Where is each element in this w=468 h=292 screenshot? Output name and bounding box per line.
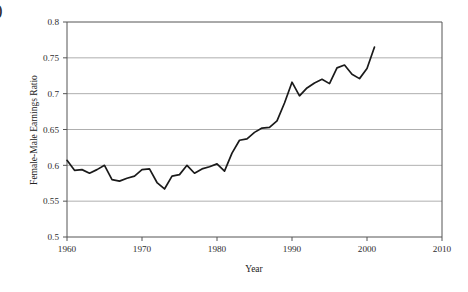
y-tick-label: 0.55 — [43, 196, 59, 206]
x-tick-label: 2000 — [358, 244, 377, 254]
y-tick-label: 0.8 — [48, 17, 60, 27]
y-tick-label: 0.65 — [43, 125, 59, 135]
y-tick-label: 0.5 — [48, 232, 60, 242]
y-tick-label: 0.75 — [43, 53, 59, 63]
x-tick-label: 1990 — [283, 244, 302, 254]
x-tick-label: 1970 — [133, 244, 152, 254]
y-axis-title: Female-Male Earnings Ratio — [29, 75, 39, 185]
x-axis-title: Year — [245, 264, 263, 274]
x-tick-label: 2010 — [433, 244, 452, 254]
y-tick-label: 0.7 — [48, 89, 60, 99]
x-tick-label: 1980 — [208, 244, 227, 254]
earnings-ratio-series — [67, 47, 375, 189]
y-axis-ticks: 0.50.550.60.650.70.750.8 — [43, 17, 67, 242]
x-tick-label: 1960 — [58, 244, 77, 254]
line-chart: 0.50.550.60.650.70.750.8 196019701980199… — [0, 0, 468, 292]
y-tick-label: 0.6 — [48, 161, 60, 171]
figure-container: 0 0.50.550.60.650.70.750.8 1960197019801… — [0, 0, 468, 292]
x-axis-ticks: 196019701980199020002010 — [58, 237, 452, 254]
